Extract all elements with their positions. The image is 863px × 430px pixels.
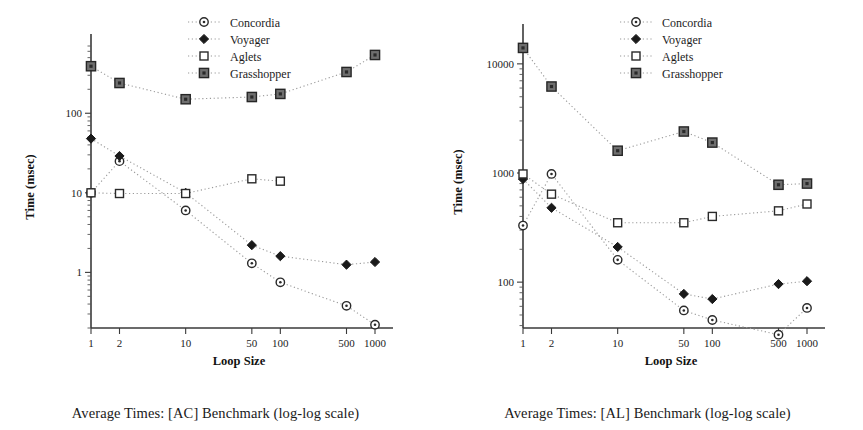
series-voyager-marker-filled-diamond <box>370 257 379 266</box>
series-voyager <box>518 174 811 303</box>
series-grasshopper-marker-square-core <box>373 53 376 56</box>
series-grasshopper-marker-square-core <box>616 149 619 152</box>
series-line-concordia <box>91 161 375 325</box>
series-grasshopper-marker-square-core <box>345 70 348 73</box>
series-grasshopper-marker-square-core <box>184 98 187 101</box>
x-tick-label: 1000 <box>364 337 387 349</box>
x-tick-label: 100 <box>272 337 289 349</box>
legend-label: Aglets <box>662 50 694 64</box>
series-aglets-marker-open-square <box>519 170 527 178</box>
series-line-voyager <box>523 179 807 299</box>
series-voyager-marker-filled-diamond <box>247 241 256 250</box>
series-concordia-marker-center-dot <box>522 224 525 227</box>
series-concordia-marker-center-dot <box>279 281 282 284</box>
chart-caption-al: Average Times: [AL] Benchmark (log-log s… <box>432 405 863 422</box>
x-tick-label: 2 <box>549 337 555 349</box>
x-tick-label: 50 <box>246 337 258 349</box>
x-tick-label: 500 <box>338 337 355 349</box>
series-voyager-marker-filled-diamond <box>774 279 783 288</box>
x-axis-title: Loop Size <box>645 354 698 368</box>
series-voyager-marker-filled-diamond <box>802 277 811 286</box>
chart-svg-ac: 1101001210501005001000Loop SizeTime (mse… <box>0 0 431 368</box>
series-grasshopper-marker-square-core <box>777 183 780 186</box>
legend-item-aglets: Aglets <box>620 50 694 64</box>
legend-item-concordia: Concordia <box>620 16 713 30</box>
y-tick-label: 1000 <box>492 167 515 179</box>
series-concordia-marker-center-dot <box>251 262 254 265</box>
series-aglets-marker-open-square <box>803 200 811 208</box>
y-tick-label: 10 <box>71 187 83 199</box>
legend-item-grasshopper: Grasshopper <box>188 67 291 81</box>
legend-item-concordia: Concordia <box>188 16 281 30</box>
chart-svg-al: 1001000100001210501005001000Loop SizeTim… <box>432 0 863 368</box>
legend-grasshopper-marker-square-core <box>634 71 637 74</box>
series-voyager-marker-filled-diamond <box>613 242 622 251</box>
series-aglets-marker-open-square <box>115 190 123 198</box>
legend-label: Grasshopper <box>230 67 291 81</box>
series-voyager <box>86 134 379 269</box>
legend-aglets-marker-open-square <box>200 52 208 60</box>
series-aglets-marker-open-square <box>87 189 95 197</box>
legend-label: Aglets <box>230 50 262 64</box>
series-grasshopper-marker-square-core <box>250 95 253 98</box>
series-aglets-marker-open-square <box>547 190 555 198</box>
series-concordia-marker-center-dot <box>374 323 377 326</box>
x-tick-label: 100 <box>704 337 721 349</box>
y-tick-label: 10000 <box>487 58 515 70</box>
legend-label: Concordia <box>230 16 281 30</box>
series-concordia <box>519 170 811 339</box>
legend-aglets-marker-open-square <box>632 52 640 60</box>
series-aglets-marker-open-square <box>775 207 783 215</box>
series-concordia-marker-center-dot <box>616 259 619 262</box>
series-grasshopper-marker-square-core <box>550 85 553 88</box>
legend-label: Concordia <box>662 16 713 30</box>
series-aglets-marker-open-square <box>182 190 190 198</box>
plot-area-al: 1001000100001210501005001000Loop SizeTim… <box>432 0 863 368</box>
y-tick-label: 1 <box>77 266 83 278</box>
series-concordia-marker-center-dot <box>711 319 714 322</box>
series-line-concordia <box>523 174 807 335</box>
chart-caption-ac: Average Times: [AC] Benchmark (log-log s… <box>0 405 431 422</box>
series-grasshopper-marker-square-core <box>89 65 92 68</box>
legend-item-voyager: Voyager <box>620 33 702 47</box>
legend-label: Voyager <box>230 33 270 47</box>
series-aglets <box>87 175 284 198</box>
series-grasshopper-marker-square-core <box>682 130 685 133</box>
series-concordia-marker-center-dot <box>806 307 809 310</box>
y-axis-title: Time (msec) <box>451 149 465 214</box>
legend-item-aglets: Aglets <box>188 50 262 64</box>
legend-voyager-marker-filled-diamond <box>631 34 640 43</box>
chart-panel-al: 1001000100001210501005001000Loop SizeTim… <box>432 0 863 430</box>
legend-label: Grasshopper <box>662 67 723 81</box>
legend-concordia-marker-center-dot <box>203 21 206 24</box>
chart-panel-ac: 1101001210501005001000Loop SizeTime (mse… <box>0 0 431 430</box>
series-voyager-marker-filled-diamond <box>342 260 351 269</box>
y-tick-label: 100 <box>498 276 515 288</box>
series-voyager-marker-filled-diamond <box>86 134 95 143</box>
series-voyager-marker-filled-diamond <box>276 252 285 261</box>
series-aglets-marker-open-square <box>248 175 256 183</box>
figure-two-panel-log-log-charts: 1101001210501005001000Loop SizeTime (mse… <box>0 0 863 430</box>
series-grasshopper-marker-square-core <box>805 182 808 185</box>
x-axis-title: Loop Size <box>213 354 266 368</box>
x-tick-label: 1 <box>520 337 526 349</box>
legend-voyager-marker-filled-diamond <box>199 34 208 43</box>
series-concordia-marker-center-dot <box>777 333 780 336</box>
series-aglets-marker-open-square <box>614 219 622 227</box>
legend-item-voyager: Voyager <box>188 33 270 47</box>
series-concordia-marker-center-dot <box>683 309 686 312</box>
series-voyager-marker-filled-diamond <box>679 289 688 298</box>
x-tick-label: 50 <box>678 337 690 349</box>
x-tick-label: 10 <box>612 337 624 349</box>
series-concordia-marker-center-dot <box>184 209 187 212</box>
series-aglets-marker-open-square <box>708 212 716 220</box>
legend-label: Voyager <box>662 33 702 47</box>
plot-area-ac: 1101001210501005001000Loop SizeTime (mse… <box>0 0 431 368</box>
series-voyager-marker-filled-diamond <box>708 294 717 303</box>
legend-item-grasshopper: Grasshopper <box>620 67 723 81</box>
legend-grasshopper-marker-square-core <box>202 71 205 74</box>
x-tick-label: 10 <box>180 337 192 349</box>
series-concordia-marker-center-dot <box>345 305 348 308</box>
y-axis-title: Time (msec) <box>23 154 37 219</box>
series-grasshopper <box>518 43 811 189</box>
